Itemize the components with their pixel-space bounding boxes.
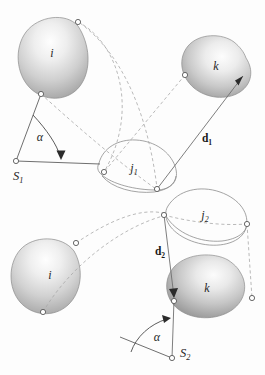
label-vector-d2: d2 — [155, 245, 165, 260]
joint-marker — [154, 186, 159, 191]
figure-container: i k j1 d1 α S1 — [0, 0, 265, 375]
connector-i-to-j2-upper — [76, 212, 163, 243]
upper-configuration: i k j1 d1 α S1 — [13, 17, 251, 192]
frame-s1-leg — [16, 94, 41, 161]
frame-s2-leg — [172, 300, 174, 358]
joint-marker — [161, 212, 166, 217]
angle-alpha-lower-arrowhead — [162, 315, 171, 323]
connector-k-to-j1 — [104, 75, 185, 172]
joint-marker — [169, 355, 174, 360]
label-frame-s1: S1 — [13, 169, 23, 185]
lower-configuration: i k j2 d2 α S2 — [11, 189, 255, 362]
label-body-k-upper: k — [213, 59, 219, 73]
label-frame-s2: S2 — [180, 346, 190, 362]
joint-marker — [182, 72, 187, 77]
label-angle-alpha-upper: α — [37, 130, 44, 144]
body-i-lower — [11, 239, 80, 314]
joint-marker — [40, 309, 45, 314]
joint-marker — [73, 240, 78, 245]
angle-alpha-lower-arc — [131, 319, 167, 352]
label-vector-d1: d1 — [202, 132, 212, 147]
frame-s1-baseline — [16, 161, 100, 164]
joint-marker — [75, 19, 80, 24]
label-body-i-lower: i — [48, 268, 51, 282]
body-j1 — [98, 140, 177, 192]
diagram-canvas: i k j1 d1 α S1 — [0, 0, 265, 375]
joint-marker — [101, 169, 106, 174]
joint-marker — [13, 158, 18, 163]
joint-marker — [38, 91, 43, 96]
label-body-k-lower: k — [204, 281, 210, 295]
joint-marker — [244, 221, 249, 226]
label-body-i-upper: i — [50, 46, 53, 60]
frame-s2-baseline — [120, 337, 172, 358]
joint-marker — [171, 298, 176, 303]
joint-marker — [249, 295, 254, 300]
angle-alpha-upper-arrowhead — [57, 151, 66, 161]
label-body-j1: j1 — [128, 161, 137, 177]
connector-j2-right-drop — [247, 224, 252, 298]
label-angle-alpha-lower: α — [154, 330, 161, 344]
label-body-j2: j2 — [199, 208, 208, 224]
